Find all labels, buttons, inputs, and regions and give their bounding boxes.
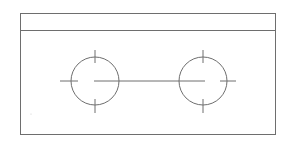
drawing-canvas (0, 0, 291, 142)
plate-outline (21, 14, 276, 135)
speck (30, 113, 31, 114)
